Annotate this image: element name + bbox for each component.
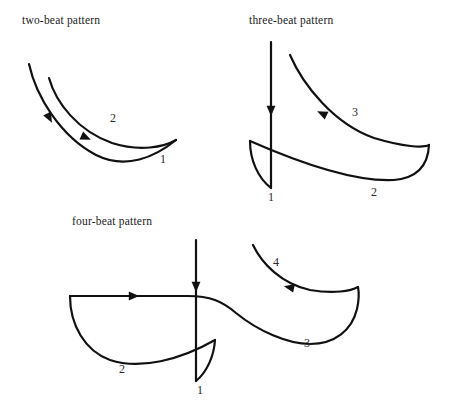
beat-label-four-beat-1: 1: [197, 383, 203, 397]
four-beat-arrow-2-head: [129, 292, 139, 301]
four-beat-left-bowl: [70, 296, 215, 364]
beat-label-four-beat-3: 3: [304, 336, 310, 350]
three-beat-arrow-3-head: [317, 111, 328, 119]
two-beat-arrow-1-head: [43, 111, 52, 122]
beat-label-three-beat-2: 2: [371, 185, 377, 199]
figure-canvas: two-beat pattern21three-beat pattern321f…: [0, 0, 452, 411]
pattern-group-two-beat: two-beat pattern21: [22, 14, 176, 166]
beat-label-two-beat-1: 1: [160, 152, 166, 166]
pattern-title-two-beat: two-beat pattern: [22, 14, 100, 27]
beat-label-three-beat-1: 1: [268, 190, 274, 204]
pattern-group-three-beat: three-beat pattern321: [249, 14, 429, 204]
beat-label-four-beat-2: 2: [119, 362, 125, 376]
four-beat-arrow-1-head: [192, 282, 201, 292]
pattern-title-three-beat: three-beat pattern: [249, 14, 333, 27]
three-beat-arrow-1-head: [267, 106, 276, 116]
conducting-patterns-figure: two-beat pattern21three-beat pattern321f…: [0, 0, 452, 411]
four-beat-horizontal-top: [70, 296, 310, 344]
beat-label-three-beat-3: 3: [352, 105, 358, 119]
three-beat-lower-bowl: [250, 141, 429, 180]
three-beat-upper-return: [290, 55, 429, 147]
beat-label-two-beat-2: 2: [110, 111, 116, 125]
four-beat-arrow-4-head: [284, 284, 295, 293]
beat-label-four-beat-4: 4: [273, 255, 279, 269]
pattern-group-four-beat: four-beat pattern4321: [70, 215, 359, 397]
pattern-title-four-beat: four-beat pattern: [72, 215, 152, 228]
four-beat-right-return: [253, 245, 358, 292]
four-beat-right-bowl: [310, 287, 359, 344]
